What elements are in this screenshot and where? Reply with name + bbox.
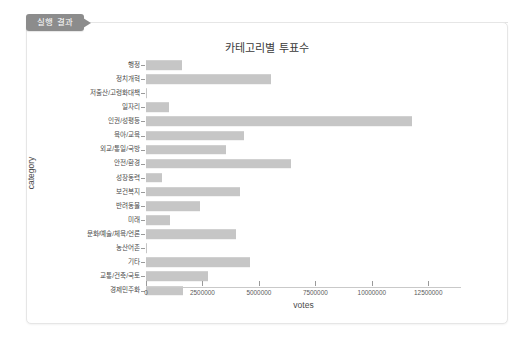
y-tick-mark (141, 234, 145, 235)
x-tick-label: 12500000 (414, 289, 442, 296)
bar (146, 272, 208, 282)
category-label: 문화/예술/체육/언론 (27, 231, 140, 238)
y-tick-mark (141, 121, 145, 122)
result-card: 카테고리별 투표수 category 행정정치개혁저출산/고령화대책일자리인권/… (26, 22, 508, 324)
bar-row: 인권/성평등 (27, 114, 507, 128)
bar-row: 행정 (27, 58, 507, 72)
bar-row: 문화/예술/체육/언론 (27, 227, 507, 241)
bar-track (146, 243, 461, 253)
bar-track (146, 187, 461, 197)
result-tab[interactable]: 실행 결과 (26, 13, 91, 32)
y-tick-mark (141, 65, 145, 66)
category-label: 반려동물 (27, 203, 140, 210)
y-tick-mark (141, 107, 145, 108)
x-tick-label: 7500000 (303, 289, 328, 296)
x-axis-line (146, 287, 461, 288)
chart-figure: 카테고리별 투표수 category 행정정치개혁저출산/고령화대책일자리인권/… (27, 23, 507, 323)
bar-track (146, 117, 461, 127)
bar-row: 육아/교육 (27, 128, 507, 142)
bar-track (146, 74, 461, 84)
x-tick-label: 2500000 (190, 289, 215, 296)
bar-track (146, 88, 461, 98)
tab-pointer-icon (83, 18, 91, 28)
category-label: 육아/교육 (27, 132, 140, 139)
bar (146, 229, 236, 239)
bar (146, 88, 147, 98)
bar-row: 보건복지 (27, 185, 507, 199)
category-label: 미래 (27, 217, 140, 224)
y-tick-mark (141, 150, 145, 151)
bar-row: 일자리 (27, 100, 507, 114)
y-tick-mark (141, 136, 145, 137)
y-tick-mark (141, 220, 145, 221)
bar (146, 103, 169, 113)
x-tick-mark (315, 281, 316, 286)
category-label: 일자리 (27, 104, 140, 111)
bar-track (146, 173, 461, 183)
bar-track (146, 145, 461, 155)
bar-row: 외교/통일/국방 (27, 143, 507, 157)
y-tick-mark (141, 248, 145, 249)
x-tick-mark (146, 281, 147, 286)
y-tick-mark (141, 79, 145, 80)
bar-track (146, 60, 461, 70)
bar-row: 성장동력 (27, 171, 507, 185)
bar (146, 215, 170, 225)
category-label: 저출산/고령화대책 (27, 90, 140, 97)
bar-track (146, 103, 461, 113)
bar-row: 안전/환경 (27, 157, 507, 171)
x-tick-mark (428, 281, 429, 286)
x-tick-mark (202, 281, 203, 286)
bar-track (146, 258, 461, 268)
x-axis-label: votes (146, 300, 461, 310)
result-tab-label: 실행 결과 (26, 14, 84, 32)
bar (146, 131, 244, 141)
category-label: 정치개혁 (27, 76, 140, 83)
bar-track (146, 131, 461, 141)
bar-track (146, 215, 461, 225)
bar-row: 교통/건축/국토 (27, 269, 507, 283)
bar-track (146, 201, 461, 211)
bar-row: 반려동물 (27, 199, 507, 213)
bar-rows: 행정정치개혁저출산/고령화대책일자리인권/성평등육아/교육외교/통일/국방안전/… (27, 58, 507, 298)
bar-row: 미래 (27, 213, 507, 227)
bar-track (146, 229, 461, 239)
bar (146, 60, 182, 70)
bar-track (146, 159, 461, 169)
bar-row: 정치개혁 (27, 72, 507, 86)
bar (146, 201, 200, 211)
category-label: 외교/통일/국방 (27, 146, 140, 153)
bar-row: 농산어촌 (27, 241, 507, 255)
category-label: 행정 (27, 62, 140, 69)
y-tick-mark (141, 276, 145, 277)
category-label: 기타 (27, 259, 140, 266)
category-label: 교통/건축/국토 (27, 273, 140, 280)
bar (146, 187, 240, 197)
bar-row: 기타 (27, 255, 507, 269)
bar (146, 145, 226, 155)
x-tick-label: 10000000 (358, 289, 386, 296)
x-tick-label: 0 (144, 289, 148, 296)
bar (146, 159, 291, 169)
x-tick-mark (259, 281, 260, 286)
bar-track (146, 272, 461, 282)
y-tick-mark (141, 164, 145, 165)
category-label: 농산어촌 (27, 245, 140, 252)
y-tick-mark (141, 206, 145, 207)
x-tick-mark (372, 281, 373, 286)
y-tick-mark (141, 262, 145, 263)
bar (146, 258, 250, 268)
bar (146, 243, 147, 253)
screenshot-root: 실행 결과 카테고리별 투표수 category 행정정치개혁저출산/고령화대책… (0, 0, 530, 344)
category-label: 보건복지 (27, 189, 140, 196)
bar-row: 저출산/고령화대책 (27, 86, 507, 100)
category-label: 성장동력 (27, 175, 140, 182)
y-tick-mark (141, 93, 145, 94)
bar (146, 74, 271, 84)
category-label: 경제민주화 (27, 287, 140, 294)
y-tick-mark (141, 178, 145, 179)
chart-title: 카테고리별 투표수 (27, 39, 507, 55)
bar (146, 173, 162, 183)
x-tick-label: 5000000 (246, 289, 271, 296)
bar (146, 117, 412, 127)
